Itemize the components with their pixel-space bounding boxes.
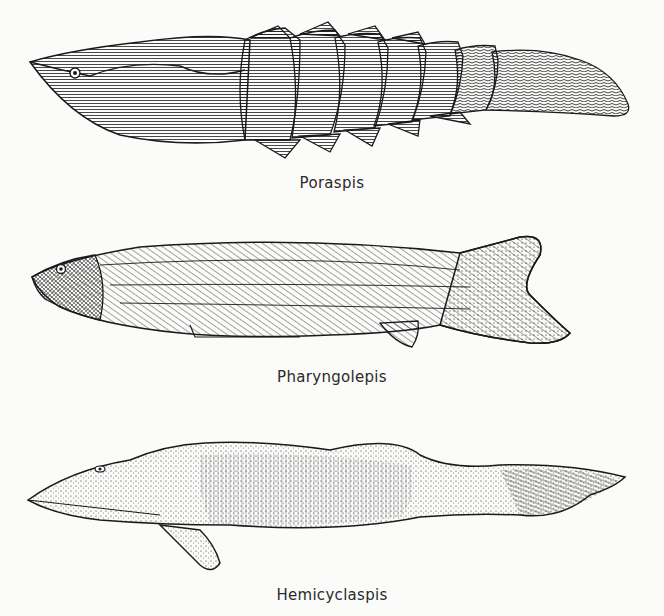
poraspis-illustration [0,0,664,170]
figure-pharyngolepis: Pharyngolepis [0,225,664,395]
caption-poraspis: Poraspis [0,174,664,192]
caption-pharyngolepis: Pharyngolepis [0,368,664,386]
hemicyclaspis-illustration [0,425,664,575]
figure-poraspis: Poraspis [0,0,664,205]
pharyngolepis-illustration [0,225,664,360]
figure-hemicyclaspis: Hemicyclaspis [0,425,664,616]
caption-hemicyclaspis: Hemicyclaspis [0,586,664,604]
